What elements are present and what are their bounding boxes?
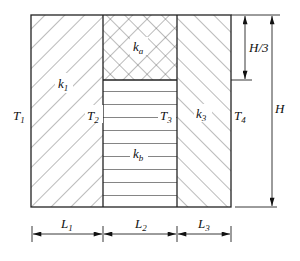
label-L1: L1 [60, 216, 73, 233]
label-H: H [274, 101, 285, 116]
label-L3: L3 [197, 216, 210, 233]
composite-wall-diagram: k1 ka kb k3 T1 T2 T3 T4 H/3 H L1 L2 L3 [0, 0, 300, 261]
region-kb [103, 80, 177, 207]
label-T1: T1 [13, 108, 25, 125]
label-L2: L2 [134, 216, 147, 233]
label-H3: H/3 [248, 40, 269, 55]
label-T4: T4 [234, 108, 246, 125]
